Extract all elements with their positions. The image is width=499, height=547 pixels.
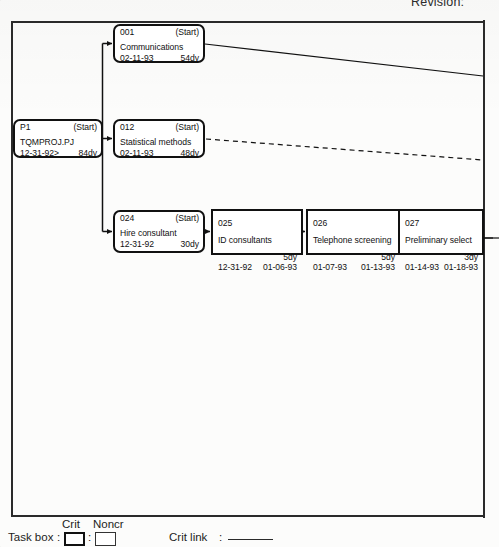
task-box-012-name: Statistical methods xyxy=(120,137,191,147)
task-box-001-name: Communications xyxy=(120,42,183,52)
task-box-001-duration: 54dy xyxy=(181,54,199,63)
task-box-012-duration: 48dy xyxy=(181,149,199,158)
task-box-025[interactable]: 025 ID consultants 5dy 12-31-92 01-06-93 xyxy=(211,209,303,255)
legend-colon-crit-link: : xyxy=(219,531,222,543)
legend-crit-label: Crit xyxy=(62,518,80,530)
task-box-027-duration: 3dy xyxy=(464,252,478,262)
task-box-027-start-date: 01-14-93 xyxy=(405,263,439,272)
task-box-026-finish-date: 01-13-93 xyxy=(361,263,395,272)
task-box-012-name-row: Statistical methods xyxy=(120,132,199,149)
legend-task-box-label: Task box xyxy=(8,531,53,543)
task-box-025-name-row: ID consultants xyxy=(218,230,297,247)
task-box-026[interactable]: 026 Telephone screening 5dy 01-07-93 01-… xyxy=(306,209,401,255)
task-box-p1-duration: 84dy xyxy=(79,149,97,158)
task-box-025-footer: 12-31-92 01-06-93 xyxy=(218,263,297,272)
task-box-027-id: 027 xyxy=(405,218,419,228)
task-box-012-start-date: 02-11-93 xyxy=(120,149,153,158)
task-box-012-id: 012 xyxy=(120,123,134,132)
task-box-027[interactable]: 027 Preliminary select 3dy 01-14-93 01-1… xyxy=(398,209,484,255)
legend-noncr-box-swatch xyxy=(95,532,116,546)
task-box-p1-start-date: 12-31-92> xyxy=(20,149,59,158)
task-box-026-start-date: 01-07-93 xyxy=(313,263,347,272)
task-box-024[interactable]: 024 (Start) Hire consultant 12-31-92 30d… xyxy=(113,210,205,253)
task-box-025-start-date: 12-31-92 xyxy=(218,263,252,272)
task-box-027-header: 027 xyxy=(405,213,478,230)
legend: Task box Crit Noncr : : Crit link : xyxy=(0,518,499,547)
task-box-025-header: 025 xyxy=(218,213,297,230)
task-box-012-footer: 02-11-93 48dy xyxy=(120,149,199,158)
task-box-p1-id: P1 xyxy=(20,123,30,132)
task-box-026-name: Telephone screening xyxy=(313,235,391,245)
task-box-001-start-date: 02-11-93 xyxy=(120,54,153,63)
task-box-024-name: Hire consultant xyxy=(120,228,177,238)
task-box-025-duration-row: 5dy xyxy=(218,247,297,264)
task-box-026-duration: 5dy xyxy=(381,252,395,262)
legend-colon-crit: : xyxy=(57,531,60,543)
task-box-025-finish-date: 01-06-93 xyxy=(263,263,297,272)
legend-crit-link-line-swatch xyxy=(228,539,273,540)
legend-noncr-label: Noncr xyxy=(93,518,124,530)
task-box-026-footer: 01-07-93 01-13-93 xyxy=(313,263,395,272)
task-box-024-name-row: Hire consultant xyxy=(120,223,199,240)
task-box-025-duration: 5dy xyxy=(283,252,297,262)
task-box-026-header: 026 xyxy=(313,213,395,230)
legend-colon-noncr: : xyxy=(88,531,91,543)
task-box-024-start-date: 12-31-92 xyxy=(120,240,154,249)
task-box-p1[interactable]: P1 (Start) TQMPROJ.PJ 12-31-92> 84dy xyxy=(13,119,103,158)
task-box-026-name-row: Telephone screening xyxy=(313,230,395,247)
task-box-024-id: 024 xyxy=(120,214,134,223)
legend-crit-box-swatch xyxy=(64,532,85,546)
task-box-001-status: (Start) xyxy=(175,28,199,37)
task-box-025-id: 025 xyxy=(218,218,232,228)
task-box-p1-status: (Start) xyxy=(73,123,97,132)
task-box-024-duration: 30dy xyxy=(181,240,199,249)
task-box-012-header: 012 (Start) xyxy=(120,123,199,132)
task-box-p1-name-row: TQMPROJ.PJ xyxy=(20,132,97,149)
task-box-012-status: (Start) xyxy=(175,123,199,132)
task-box-001-footer: 02-11-93 54dy xyxy=(120,54,199,63)
task-box-027-duration-row: 3dy xyxy=(405,247,478,264)
task-box-024-header: 024 (Start) xyxy=(120,214,199,223)
task-box-027-footer: 01-14-93 01-18-93 xyxy=(405,263,478,272)
task-box-027-name-row: Preliminary select xyxy=(405,230,478,247)
task-box-p1-header: P1 (Start) xyxy=(20,123,97,132)
legend-crit-link-label: Crit link xyxy=(169,531,207,543)
task-box-001-name-row: Communications xyxy=(120,37,199,54)
task-box-025-name: ID consultants xyxy=(218,235,272,245)
task-box-001-header: 001 (Start) xyxy=(120,28,199,37)
task-box-001-id: 001 xyxy=(120,28,134,37)
task-box-p1-footer: 12-31-92> 84dy xyxy=(20,149,97,158)
task-box-012[interactable]: 012 (Start) Statistical methods 02-11-93… xyxy=(113,119,205,158)
task-box-024-status: (Start) xyxy=(175,214,199,223)
task-box-024-footer: 12-31-92 30dy xyxy=(120,240,199,249)
revision-header-text: Revision: xyxy=(411,0,464,9)
task-box-026-duration-row: 5dy xyxy=(313,247,395,264)
task-box-027-name: Preliminary select xyxy=(405,235,472,245)
task-box-026-id: 026 xyxy=(313,218,327,228)
diagram-frame-right-rule xyxy=(483,20,485,518)
task-box-027-finish-date: 01-18-93 xyxy=(444,263,478,272)
task-box-p1-name: TQMPROJ.PJ xyxy=(20,137,74,147)
task-box-001[interactable]: 001 (Start) Communications 02-11-93 54dy xyxy=(113,24,205,63)
